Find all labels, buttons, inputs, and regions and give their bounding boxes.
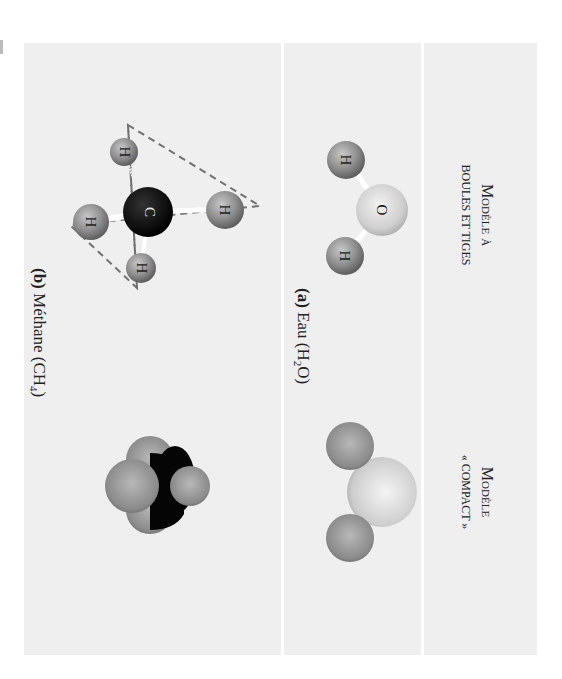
header-space-filling-line1: Modèle [479,467,496,518]
caption-methane-name: Méthane (CH [30,293,49,386]
hydrogen-sphere [105,459,159,513]
svg-text:(a) Eau (H2O): (a) Eau (H2O) [292,288,313,384]
header-space-filling-line2: « compact » [459,455,473,530]
caption-methane-prefix: (b) [30,268,49,289]
hydrogen-sphere [326,514,374,562]
hydrogen-sphere [170,466,210,506]
caption-water-prefix: (a) [294,288,313,308]
header-ball-and-stick-line2: boules et tiges [459,165,473,266]
caption-water-suffix: O) [294,366,313,384]
caption-methane: (b) Méthane (CH4) [28,268,49,397]
carbon-symbol: C [142,207,158,217]
caption-water-name: Eau (H [294,312,313,361]
hydrogen-symbol: H [337,251,353,262]
figure-canvas: Modèle à boules et tiges Modèle « compac… [0,0,562,679]
hydrogen-sphere [326,422,374,470]
hydrogen-symbol: H [217,205,233,216]
hydrogen-symbol: H [83,217,99,228]
svg-text:(b) Méthane (CH4: (b) Méthane (CH4) [28,268,49,397]
hydrogen-symbol: H [134,263,150,274]
page-edge-mark [0,40,3,54]
figure-panel [24,43,537,655]
hydrogen-symbol: H [117,147,133,158]
header-ball-and-stick-line1: Modèle à [479,184,496,246]
caption-methane-suffix: ) [30,392,49,398]
hydrogen-symbol: H [338,155,354,166]
oxygen-symbol: O [374,205,390,216]
row-divider [281,43,284,655]
caption-water: (a) Eau (H2O) [292,288,313,384]
header-divider [421,43,424,655]
